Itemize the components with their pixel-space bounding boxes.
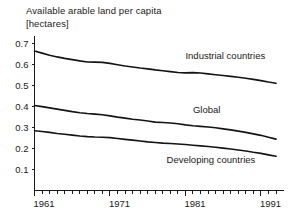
series-label-global: Global (193, 104, 220, 115)
x-axis-labels: 1961197119811991 (34, 198, 282, 209)
y-tick-label: 0.5 (15, 80, 28, 91)
x-tick-label: 1991 (260, 198, 281, 209)
y-tick-label: 0.6 (15, 59, 28, 70)
line-chart-plot: 0.10.20.30.40.50.60.7 1961197119811991 I… (0, 0, 290, 217)
series-lines (35, 51, 277, 156)
x-axis-ticks (35, 191, 277, 196)
series-label-developing-countries: Developing countries (167, 154, 256, 165)
y-tick-label: 0.7 (15, 38, 28, 49)
y-tick-label: 0.2 (15, 143, 28, 154)
x-tick-label: 1961 (34, 198, 55, 209)
series-line-global (35, 106, 277, 140)
y-tick-label: 0.4 (15, 101, 28, 112)
series-line-developing-countries (35, 131, 277, 157)
y-axis-labels: 0.10.20.30.40.50.60.7 (15, 38, 28, 175)
x-tick-label: 1981 (184, 198, 205, 209)
chart-container: Available arable land per capita [hectar… (0, 0, 290, 217)
x-tick-label: 1971 (109, 198, 130, 209)
y-tick-label: 0.3 (15, 122, 28, 133)
y-tick-label: 0.1 (15, 164, 28, 175)
series-label-industrial-countries: Industrial countries (185, 50, 265, 61)
